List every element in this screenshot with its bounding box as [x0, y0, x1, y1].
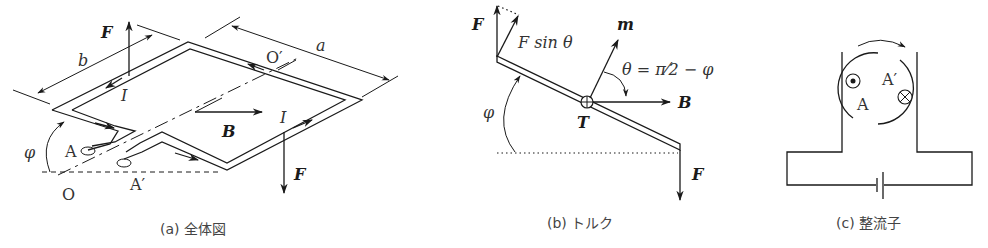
rotation-axis — [58, 58, 298, 175]
caption-c: (c) 整流子 — [836, 215, 901, 231]
terminal-a-prime-end — [117, 159, 131, 167]
label-terminal-a-prime: A′ — [881, 70, 898, 89]
force-component-arrow — [497, 16, 518, 57]
panel-a-overview: F b a O′ I I B φ A A′ O F (a) 全体図 — [13, 17, 398, 237]
coil-inner — [72, 49, 345, 163]
rotation-arrow — [858, 40, 905, 47]
label-force-bottom: F — [691, 165, 705, 184]
dimension-a-arrow — [232, 26, 389, 80]
moment-m-arrow — [590, 40, 618, 98]
label-force-top: F — [100, 23, 114, 42]
figure-canvas: F b a O′ I I B φ A A′ O F (a) 全体図 — [0, 0, 988, 248]
label-torque-t: T — [577, 113, 590, 132]
angle-phi-arc — [46, 122, 64, 172]
label-field-b: B — [677, 93, 692, 112]
label-terminal-a-prime: A′ — [129, 175, 146, 194]
circuit-wire — [787, 52, 972, 185]
label-force-bottom: F — [293, 165, 307, 184]
caption-a: (a) 全体図 — [160, 221, 226, 237]
label-force-top: F — [471, 15, 485, 34]
label-angle-phi: φ — [24, 143, 36, 162]
label-angle-relation: θ = π⁄2 − φ — [622, 60, 714, 79]
label-current-top: I — [120, 86, 128, 105]
panel-b-torque: F F sin θ m θ = π⁄2 − φ B T φ F (b) トルク — [471, 6, 714, 231]
label-moment-m: m — [617, 15, 634, 34]
label-axis-o-prime: O′ — [266, 48, 283, 67]
label-length-a: a — [316, 36, 326, 55]
panel-c-commutator: A A′ (c) 整流子 — [787, 40, 972, 231]
label-angle-phi: φ — [483, 103, 495, 122]
lead-a — [52, 110, 118, 150]
label-current-right: I — [279, 108, 287, 127]
terminal-a-end — [81, 147, 95, 155]
dimension-b-arrow — [38, 35, 152, 93]
label-terminal-a: A — [856, 95, 869, 114]
label-width-b: b — [78, 51, 88, 70]
label-terminal-a: A — [64, 142, 77, 161]
angle-phi-arc — [504, 76, 520, 152]
label-axis-o: O — [62, 185, 75, 204]
caption-b: (b) トルク — [547, 215, 613, 231]
label-force-component: F sin θ — [517, 33, 573, 52]
label-field-b: B — [221, 122, 236, 141]
